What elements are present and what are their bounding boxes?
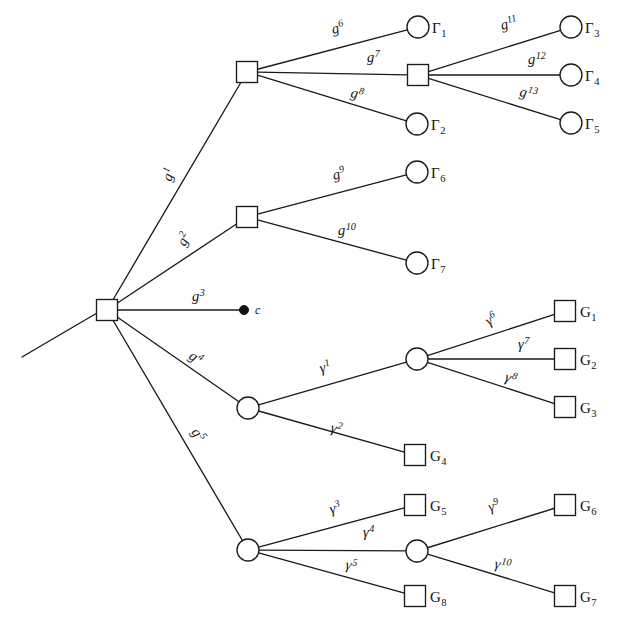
node-label-Gam2: Γ2 [431,117,445,136]
graph-edge-e-y10[interactable] [428,554,555,593]
incoming-edge-stub [22,313,97,357]
graph-edge-e-g5[interactable] [113,321,242,541]
svg-text:γ6: γ6 [481,308,500,328]
svg-text:γ3: γ3 [327,497,342,516]
node-c[interactable] [240,306,249,315]
edge-label-e-g12: g12 [528,50,546,67]
svg-text:g3: g3 [192,287,205,304]
edge-label-e-g8: g8 [349,83,365,102]
edge-label-e-g1: g1 [158,166,178,183]
svg-text:g7: g7 [367,48,381,65]
graph-edge-e-g7[interactable] [258,72,408,75]
node-label-Gam4: Γ4 [585,68,600,87]
graph-svg: g1g2g3g4g5g6g7g8g9g10g11g12g13γ1γ2γ6γ7γ8… [0,0,628,628]
node-Gam2[interactable] [406,113,428,135]
edge-label-e-g10: g10 [338,221,356,238]
node-o1[interactable] [237,397,259,419]
node-label-Gam1: Γ1 [432,20,446,39]
graph-edge-e-y4[interactable] [259,550,406,551]
graph-edge-e-g10[interactable] [258,220,407,260]
graph-edge-e-y1[interactable] [259,362,407,405]
node-o3[interactable] [237,539,259,561]
edge-label-e-g5: g5 [189,424,210,444]
node-label-Gam3: Γ3 [585,20,599,39]
svg-text:g5: g5 [189,424,210,444]
node-s1[interactable] [237,62,258,83]
node-G7[interactable] [555,586,576,607]
edge-label-e-g6: g6 [329,17,346,37]
graph-edge-e-y8[interactable] [427,362,554,403]
edge-label-e-y8: γ8 [503,368,519,388]
edge-label-e-y10: γ10 [493,554,512,574]
node-s2[interactable] [408,65,429,86]
node-label-Gam6: Γ6 [431,165,445,184]
node-label-Gam5: Γ5 [585,116,599,135]
node-Gam3[interactable] [560,16,582,38]
svg-text:g6: g6 [329,17,346,37]
svg-text:g2: g2 [173,229,194,248]
edge-label-e-y3: γ3 [327,497,342,516]
edge-label-e-g11: g11 [498,12,519,33]
edge-label-e-y1: γ1 [317,356,332,375]
svg-text:γ8: γ8 [503,368,519,388]
svg-text:g4: g4 [186,346,206,367]
svg-text:γ5: γ5 [344,555,358,574]
edge-label-e-g13: g13 [518,82,539,102]
edge-label-e-g3: g3 [192,287,205,304]
node-label-G2: G2 [580,352,597,371]
node-label-G1: G1 [580,304,597,323]
edge-label-e-g7: g7 [367,48,381,65]
graph-edge-e-g1[interactable] [113,83,241,300]
node-label-G8: G8 [430,589,447,608]
svg-text:γ4: γ4 [363,523,374,540]
node-label-Gam7: Γ7 [431,256,445,275]
node-s3[interactable] [237,207,258,228]
edge-label-e-y4: γ4 [363,523,374,540]
svg-text:γ9: γ9 [485,495,501,515]
node-o4[interactable] [406,540,428,562]
node-labels-layer: cΓ1Γ2Γ3Γ4Γ5Γ6Γ7G1G2G3G4G5G6G7G8 [255,20,600,608]
edge-label-e-y5: γ5 [344,555,358,574]
svg-text:γ10: γ10 [493,554,512,574]
node-G4[interactable] [405,445,426,466]
node-G8[interactable] [405,586,426,607]
node-G6[interactable] [555,495,576,516]
node-G1[interactable] [555,301,576,322]
node-label-G4: G4 [430,448,447,467]
svg-text:g13: g13 [518,82,539,102]
node-G3[interactable] [555,397,576,418]
node-Gam1[interactable] [407,16,429,38]
node-label-G5: G5 [430,498,447,517]
edge-label-e-g9: g9 [330,163,347,183]
node-o2[interactable] [406,348,428,370]
node-label-G3: G3 [580,400,597,419]
node-root[interactable] [97,300,118,321]
svg-text:γ7: γ7 [518,335,530,352]
node-G5[interactable] [405,495,426,516]
edge-label-e-g4: g4 [186,346,206,367]
svg-text:γ1: γ1 [317,356,332,375]
graph-edge-e-g9[interactable] [258,175,407,214]
graph-edge-e-g13[interactable] [429,78,561,119]
edge-label-e-y7: γ7 [518,335,530,352]
node-label-c: c [255,303,261,317]
graph-edge-e-g8[interactable] [258,75,407,121]
edge-label-e-y9: γ9 [485,495,501,515]
svg-text:g9: g9 [330,163,347,183]
svg-text:g1: g1 [158,166,178,183]
edge-label-e-y6: γ6 [481,308,500,328]
node-G2[interactable] [555,349,576,370]
node-label-G7: G7 [580,589,597,608]
node-Gam7[interactable] [406,252,428,274]
svg-text:g11: g11 [498,12,519,33]
node-Gam4[interactable] [560,64,582,86]
node-Gam6[interactable] [406,161,428,183]
graph-edge-e-y5[interactable] [259,553,405,593]
graph-edge-e-g6[interactable] [258,30,408,69]
svg-text:g8: g8 [349,83,365,102]
svg-text:g10: g10 [338,221,356,238]
tree-diagram-canvas: g1g2g3g4g5g6g7g8g9g10g11g12g13γ1γ2γ6γ7γ8… [0,0,628,628]
node-Gam5[interactable] [560,112,582,134]
edge-label-e-g2: g2 [173,229,194,248]
svg-text:g12: g12 [528,50,546,67]
